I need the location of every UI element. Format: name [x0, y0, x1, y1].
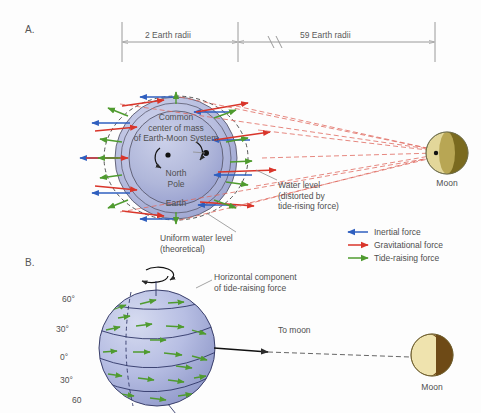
moon-a — [426, 130, 471, 178]
globe-axis-south — [168, 404, 176, 413]
latitude-label-0: 0° — [60, 352, 68, 362]
label-earth: Earth — [150, 198, 202, 209]
label-moon-a: Moon — [424, 178, 470, 189]
latitude-label-60s: 60 — [72, 395, 81, 405]
legend-label-gravitational: Gravitational force — [374, 240, 443, 250]
legend-label-inertial: Inertial force — [374, 227, 421, 237]
label-moon-b: Moon — [409, 382, 455, 393]
figure-canvas: A. B. 2 Earth radii 59 Earth radii Commo… — [0, 0, 481, 413]
leader-uniform-water — [208, 214, 236, 232]
latitude-label-30n: 30° — [56, 324, 69, 334]
label-north-pole: North Pole — [148, 168, 204, 189]
panel-label-b: B. — [25, 257, 34, 268]
label-panelb-title: Horizontal component of tide-raising for… — [214, 272, 297, 293]
leader-water-distorted — [256, 170, 277, 180]
label-uniform-water-level: Uniform water level (theoretical) — [160, 233, 233, 254]
panel-label-a: A. — [25, 24, 34, 35]
leader-panelb-title — [196, 280, 212, 288]
label-water-level-distorted: Water level (distorted by tide-rising fo… — [278, 180, 339, 212]
globe-body — [99, 290, 215, 406]
legend-label-tide-raising: Tide-raising force — [374, 253, 439, 263]
latitude-label-30s: 30° — [60, 375, 73, 385]
dimension-label-left: 2 Earth radii — [145, 30, 191, 40]
to-moon-vector — [214, 348, 410, 357]
diagram-svg — [0, 0, 481, 413]
moon-b — [411, 332, 456, 378]
label-center-of-mass: Common center of mass of Earth-Moon Syst… — [122, 112, 230, 144]
label-to-moon: To moon — [278, 325, 311, 336]
legend-swatches — [348, 232, 368, 258]
dimension-bar — [122, 22, 435, 62]
dimension-label-right: 59 Earth radii — [300, 30, 351, 40]
latitude-label-60n: 60° — [62, 294, 75, 304]
